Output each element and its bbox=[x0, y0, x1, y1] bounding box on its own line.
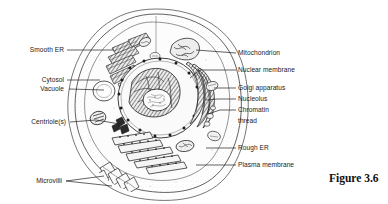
label-golgi-apparatus: Golgi apparatus bbox=[238, 85, 285, 92]
label-chromatin: Chromatin bbox=[238, 107, 269, 114]
vacuole-shape bbox=[93, 81, 115, 101]
label-rough-er: Rough ER bbox=[238, 145, 269, 152]
nucleolus-shape bbox=[143, 89, 171, 111]
label-mitochondrion: Mitochondrion bbox=[238, 50, 280, 57]
label-vacuole: Vacuole bbox=[40, 86, 64, 93]
figure-page: Smooth ER Cytosol Vacuole Centriole(s) M… bbox=[0, 0, 388, 204]
chromatin-thread-shape bbox=[129, 68, 180, 117]
label-smooth-er: Smooth ER bbox=[30, 47, 64, 54]
label-nuclear-membrane: Nuclear membrane bbox=[238, 67, 295, 74]
label-microvilli: Microvilli bbox=[36, 178, 62, 185]
label-chromatin-thread: thread bbox=[238, 118, 257, 125]
figure-caption: Figure 3.6 bbox=[329, 172, 379, 184]
label-centrioles: Centriole(s) bbox=[31, 119, 66, 126]
label-cytosol: Cytosol bbox=[42, 77, 64, 84]
nucleus-shape bbox=[118, 58, 203, 139]
label-plasma-membrane: Plasma membrane bbox=[238, 162, 294, 169]
label-nucleolus: Nucleolus bbox=[238, 96, 267, 103]
